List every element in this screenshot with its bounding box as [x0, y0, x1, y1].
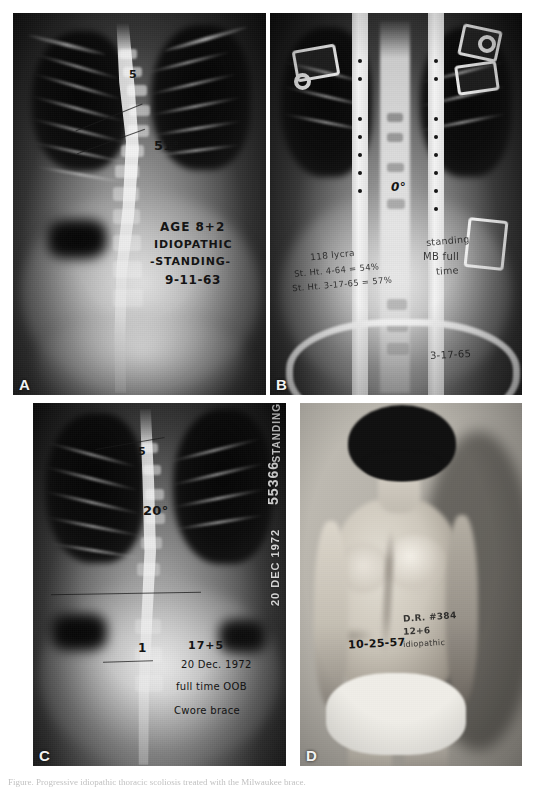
- panel-d-clinical-photo[interactable]: 10-25-57 D.R. #384 12+6 idiopathic D: [300, 403, 522, 766]
- panel-d-letter: D: [306, 747, 317, 764]
- panel-c-film-label-position: STANDING: [271, 403, 282, 462]
- vertebra: [135, 619, 161, 634]
- panel-b-date-line: 3-17-65: [430, 348, 472, 361]
- panel-c-radiograph[interactable]: STANDING 55366 20 DEC 1972 5 20° 1 17+5 …: [33, 403, 286, 766]
- bowel-gas: [219, 619, 267, 653]
- panel-a-cobb-angle: 51°: [154, 138, 180, 153]
- panel-c-date-line: 20 Dec. 1972: [181, 659, 252, 670]
- vertebra: [135, 675, 163, 692]
- underwear: [326, 673, 466, 755]
- panel-a-apex-marker: 5: [129, 68, 137, 81]
- panel-b-letter: B: [276, 376, 287, 393]
- panel-c-film-label-number: 55366: [265, 461, 281, 505]
- torso: [328, 499, 464, 695]
- panel-b-position-line3: time: [436, 264, 459, 277]
- panel-c-cobb-angle: 20°: [143, 503, 169, 518]
- brace-hole: [434, 117, 438, 121]
- panel-d-chart-line2: 12+6: [403, 625, 431, 636]
- hair-lower: [362, 451, 442, 481]
- figure-plate: 5 51° AGE 8+2 IDIOPATHIC -STANDING- 9-11…: [0, 0, 535, 788]
- panel-a-diagnosis-line: IDIOPATHIC: [154, 238, 232, 251]
- brace-hole: [358, 117, 362, 121]
- brace-hole: [434, 189, 438, 193]
- vertebra: [145, 489, 164, 500]
- vertebra: [119, 49, 137, 59]
- brace-hole: [358, 189, 362, 193]
- panel-c-letter: C: [39, 747, 50, 764]
- vertebra: [387, 163, 404, 172]
- brace-hole: [434, 59, 438, 63]
- brace-hole: [434, 153, 438, 157]
- vertebra: [127, 85, 147, 96]
- vertebra: [387, 133, 403, 142]
- vertebra: [113, 187, 139, 201]
- brace-hole: [358, 135, 362, 139]
- figure-caption: Figure. Progressive idiopathic thoracic …: [8, 776, 527, 788]
- brace-hole: [358, 59, 362, 63]
- vertebra: [387, 113, 403, 122]
- panel-a-age-line: AGE 8+2: [160, 220, 225, 234]
- vertebra: [141, 537, 162, 549]
- panel-c-image: [33, 403, 286, 766]
- brace-hole: [434, 207, 438, 211]
- arm-right: [446, 515, 478, 703]
- panel-b-cobb-angle: 0°: [391, 180, 406, 194]
- panel-c-age-line: 17+5: [188, 639, 224, 652]
- vertebra: [121, 145, 144, 157]
- vertebra: [143, 465, 161, 475]
- brace-occipital-pad: [454, 60, 500, 96]
- brace-hole: [434, 135, 438, 139]
- lung-field-right: [173, 409, 273, 564]
- vertebra: [387, 299, 407, 310]
- panel-c-film-label-date: 20 DEC 1972: [269, 529, 281, 606]
- vertebra: [113, 289, 143, 307]
- panel-c-lumbar-marker: 1: [138, 641, 147, 655]
- brace-hole: [434, 77, 438, 81]
- panel-c-apex-marker: 5: [138, 445, 146, 458]
- panel-c-status-line1: full time OOB: [176, 681, 247, 692]
- brace-hole: [358, 153, 362, 157]
- panel-a-image: [13, 13, 266, 395]
- panel-b-radiograph[interactable]: 0° 118 lycra St. Ht. 4-64 = 54% St. Ht. …: [270, 13, 522, 395]
- brace-hole: [358, 77, 362, 81]
- brace-hole: [434, 171, 438, 175]
- panel-d-image: [300, 403, 522, 766]
- panel-a-date-line: 9-11-63: [165, 273, 221, 287]
- vertebra: [137, 563, 160, 576]
- panel-a-radiograph[interactable]: 5 51° AGE 8+2 IDIOPATHIC -STANDING- 9-11…: [13, 13, 266, 395]
- vertebra: [113, 209, 140, 224]
- gastric-bubble: [47, 219, 107, 259]
- panel-a-position-line: -STANDING-: [150, 255, 231, 268]
- vertebra: [113, 235, 141, 251]
- vertebra: [113, 261, 142, 278]
- arm-left: [314, 521, 348, 707]
- panel-b-position-line2: MB full: [423, 251, 459, 262]
- panel-a-letter: A: [19, 376, 30, 393]
- panel-b-image: [270, 13, 522, 395]
- brace-hole: [358, 171, 362, 175]
- vertebra: [115, 165, 139, 178]
- gastric-bubble: [51, 613, 107, 651]
- vertebra: [387, 199, 405, 209]
- brace-thoracic-pad-clip: [463, 217, 508, 271]
- panel-c-status-line2: Cwore brace: [174, 705, 240, 716]
